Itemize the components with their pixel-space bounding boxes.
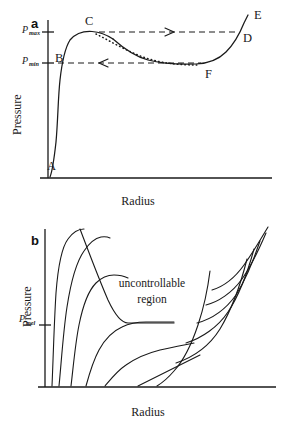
panel-a-point-e: E — [254, 8, 262, 22]
panel-a-svg: a P max P min Pressure Radius — [0, 0, 290, 215]
pmin-subscript: min — [29, 60, 40, 67]
panel-b-curve-2 — [59, 237, 110, 386]
panel-b-annotation-line1: uncontrollable — [119, 277, 185, 289]
panel-a-y-axis-title: Pressure — [10, 94, 24, 135]
pmax-subscript: max — [29, 29, 40, 36]
panel-b-uncontrollable-boundary — [80, 229, 174, 323]
panel-b-curve-4 — [86, 322, 174, 386]
panel-b-annotation-line2: region — [137, 293, 167, 306]
panel-a-point-c: C — [85, 14, 93, 28]
panel-a-ytick-label-pmin: P min — [21, 55, 40, 67]
panel-a-point-f: F — [205, 67, 212, 81]
panel-a-point-d: D — [243, 31, 252, 45]
panel-a-point-a: A — [47, 159, 56, 173]
panel-b-letter: b — [31, 233, 39, 248]
pmin-base: P — [21, 55, 28, 66]
panel-a: a P max P min Pressure Radius — [0, 0, 290, 215]
panel-b-curve-1 — [52, 229, 84, 386]
panel-b: b P mel Pressure Radius — [0, 215, 290, 429]
figure-container: a P max P min Pressure Radius — [0, 0, 290, 429]
panel-b-y-axis-title: Pressure — [20, 286, 34, 327]
pmax-base: P — [21, 24, 28, 35]
panel-b-x-axis-title: Radius — [131, 405, 165, 419]
panel-b-right-curve-1 — [212, 227, 268, 290]
panel-a-point-b: B — [55, 51, 63, 65]
panel-b-svg: b P mel Pressure Radius — [0, 215, 290, 429]
panel-a-curve-branch-ef — [113, 15, 248, 64]
panel-b-curve-3 — [71, 275, 128, 386]
panel-a-x-axis-title: Radius — [121, 194, 155, 208]
panel-b-curve-6 — [138, 355, 200, 386]
